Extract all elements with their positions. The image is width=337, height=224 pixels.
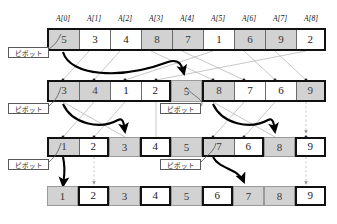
row4-cell-4[interactable]: 4: [142, 188, 169, 204]
row3-cell-7[interactable]: 7: [204, 139, 235, 155]
row2-left-cell-1[interactable]: 4: [80, 82, 111, 100]
row-3-group-9: 9: [295, 137, 326, 157]
row3-cell-5[interactable]: 5: [172, 138, 201, 156]
row1-cell-5[interactable]: 1: [204, 30, 235, 49]
row-4-group-9: 9: [295, 186, 326, 206]
row-4-group-2: 2: [78, 186, 109, 206]
row4-cell-7[interactable]: 7: [234, 187, 263, 205]
pivot-label-row1: ピボット: [8, 47, 49, 58]
row-4-group-6: 6: [202, 186, 233, 206]
header-a2: A[2]: [112, 14, 138, 23]
row-3-group-pivot-3: 3: [109, 137, 140, 157]
row2-left-cell-0[interactable]: 3: [49, 82, 80, 100]
row2-right-cell-0[interactable]: 8: [204, 82, 235, 100]
row-1-group-full: 5 3 4 8 7 1 6 9 2: [47, 28, 326, 51]
row3-cell-3[interactable]: 3: [110, 138, 139, 156]
row3-cell-9[interactable]: 9: [297, 139, 324, 155]
row1-cell-2[interactable]: 4: [111, 30, 142, 49]
row-4-group-5: 5: [171, 186, 202, 206]
row4-cell-3[interactable]: 3: [110, 187, 139, 205]
row2-left-cell-3[interactable]: 2: [142, 82, 169, 100]
row1-cell-0[interactable]: 5: [49, 30, 80, 49]
row1-cell-8[interactable]: 2: [297, 30, 324, 49]
header-a4: A[4]: [174, 14, 200, 23]
row1-cell-3[interactable]: 8: [142, 30, 173, 49]
pivot-label-row3-mid: ピボット: [160, 159, 201, 170]
figure-canvas: A[0] A[1] A[2] A[3] A[4] A[5] A[6] A[7] …: [0, 0, 337, 224]
row2-left-cell-2[interactable]: 1: [111, 82, 142, 100]
pivot-arrow-row2-right: [213, 104, 275, 132]
row4-cell-6[interactable]: 6: [204, 188, 231, 204]
row-3-group-sorted-5: 5: [171, 137, 202, 157]
row-4-group-1: 1: [47, 186, 78, 206]
header-a7: A[7]: [267, 14, 293, 23]
row2-right-cell-2[interactable]: 6: [266, 82, 297, 100]
row3-cell-6[interactable]: 6: [235, 139, 262, 155]
pivot-label-row3-left: ピボット: [8, 159, 49, 170]
pivot-label-row2-left: ピボット: [8, 103, 49, 114]
row1-cell-7[interactable]: 9: [266, 30, 297, 49]
pivot-arrow-row3-left: [63, 157, 65, 186]
pivot-label-row2-mid: ピボット: [160, 103, 201, 114]
pivot-arrow-row3-right: [213, 157, 244, 182]
row2-right-cell-1[interactable]: 7: [235, 82, 266, 100]
row3-cell-4[interactable]: 4: [142, 139, 169, 155]
row3-cell-8[interactable]: 8: [265, 138, 294, 156]
row4-cell-5[interactable]: 5: [172, 187, 201, 205]
row-3-group-7-6: 7 6: [202, 137, 264, 157]
row-3-group-1-2: 1 2: [47, 137, 109, 157]
row-2-group-left: 3 4 1 2: [47, 80, 171, 102]
row-4-group-3: 3: [109, 186, 140, 206]
header-a6: A[6]: [236, 14, 262, 23]
row-3-group-pivot-8: 8: [264, 137, 295, 157]
row4-cell-9[interactable]: 9: [297, 188, 324, 204]
row4-cell-1[interactable]: 1: [48, 187, 77, 205]
header-a8: A[8]: [298, 14, 324, 23]
pivot-arrow-row2-left: [63, 104, 125, 132]
row-2-group-right: 8 7 6 9: [202, 80, 326, 102]
row-2-group-pivot-5: 5: [171, 80, 202, 102]
row-4-group-7: 7: [233, 186, 264, 206]
row1-cell-4[interactable]: 7: [173, 30, 204, 49]
header-a3: A[3]: [143, 14, 169, 23]
pivot-arrow-row1: [63, 52, 184, 74]
row4-cell-8[interactable]: 8: [265, 187, 294, 205]
row1-cell-1[interactable]: 3: [80, 30, 111, 49]
header-a1: A[1]: [81, 14, 107, 23]
row2-pivot-cell-5[interactable]: 5: [172, 81, 201, 101]
row-4-group-8: 8: [264, 186, 295, 206]
thin-connectors-r1-r2: [63, 51, 306, 80]
row3-cell-2[interactable]: 2: [80, 139, 107, 155]
row2-right-cell-3[interactable]: 9: [297, 82, 324, 100]
row-4-group-4: 4: [140, 186, 171, 206]
header-a5: A[5]: [205, 14, 231, 23]
header-a0: A[0]: [50, 14, 76, 23]
row3-cell-1[interactable]: 1: [49, 139, 80, 155]
row1-cell-6[interactable]: 6: [235, 30, 266, 49]
row4-cell-2[interactable]: 2: [80, 188, 107, 204]
row-3-group-4: 4: [140, 137, 171, 157]
